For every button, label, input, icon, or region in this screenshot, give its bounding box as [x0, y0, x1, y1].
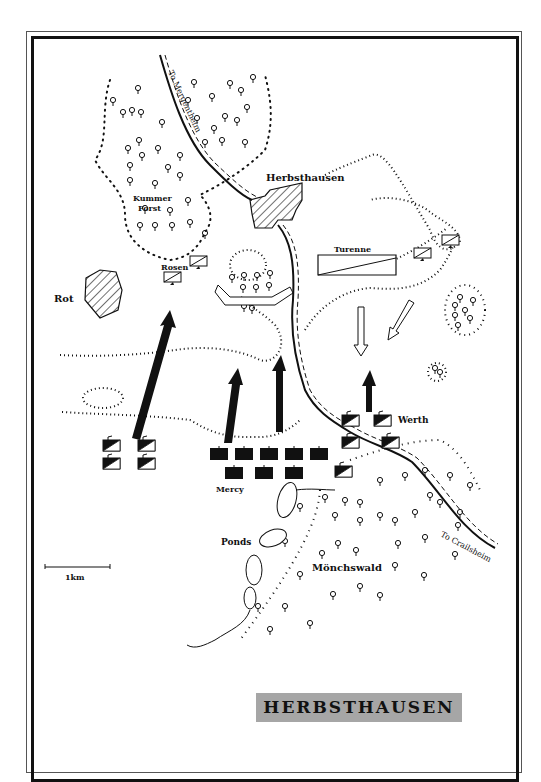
herbsthausen-village [250, 183, 302, 228]
label-mercy: Mercy [216, 484, 244, 494]
french-forces [164, 235, 459, 356]
label-rosen: Rosen [161, 262, 188, 272]
map-title: HERBSTHAUSEN [256, 693, 462, 722]
label-herbsthausen: Herbsthausen [266, 172, 345, 183]
label-turenne: Turenne [334, 244, 371, 254]
label-werth: Werth [398, 415, 429, 425]
scale-bar [45, 564, 110, 569]
label-monchswald: Mönchswald [312, 562, 382, 573]
label-rot: Rot [54, 293, 74, 304]
rot-village [85, 270, 122, 318]
label-ponds: Ponds [221, 537, 251, 547]
label-kummer: Kummer [133, 193, 172, 203]
bavarian-units [103, 411, 399, 479]
bavarian-arrows [132, 310, 376, 443]
label-forst: Forst [138, 203, 161, 213]
east-woods [428, 285, 485, 381]
map-title-box: HERBSTHAUSEN [256, 693, 462, 722]
scale-label: 1km [65, 572, 85, 582]
